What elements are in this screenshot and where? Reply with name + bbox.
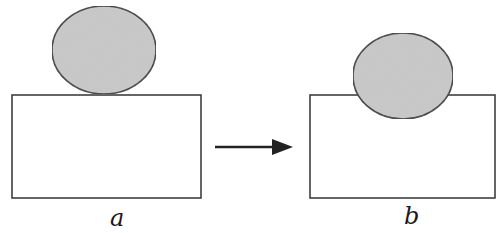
panel-a: a: [12, 6, 201, 232]
panel-label-b: b: [404, 202, 419, 230]
substrate-a: [12, 95, 201, 198]
droplet-a: [52, 6, 156, 94]
panel-label-a: a: [110, 204, 124, 232]
droplet-diagram: a b: [0, 0, 502, 233]
panel-b: b: [310, 33, 495, 230]
droplet-b: [353, 33, 453, 119]
right-arrow-icon: [215, 139, 293, 155]
